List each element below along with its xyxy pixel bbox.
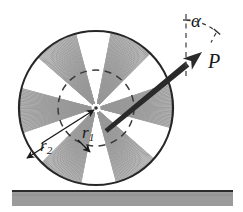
figure-root: α P r1 r2 — [0, 0, 243, 212]
r1-label: r1 — [82, 124, 94, 143]
ground — [12, 191, 233, 206]
alpha-tick-force — [214, 29, 220, 35]
wheel-hub — [94, 106, 98, 110]
force-label-P: P — [208, 51, 220, 71]
r1-subscript: 1 — [89, 131, 95, 143]
r2-base: r — [40, 136, 47, 155]
wheel-diagram-svg — [0, 0, 243, 212]
alpha-arc-tail — [211, 33, 216, 43]
ground-speckle — [12, 194, 233, 196]
alpha-angle-arc — [183, 20, 220, 43]
alpha-label: α — [191, 11, 201, 30]
r2-label: r2 — [40, 137, 52, 156]
r1-base: r — [82, 123, 89, 142]
r2-subscript: 2 — [47, 144, 53, 156]
